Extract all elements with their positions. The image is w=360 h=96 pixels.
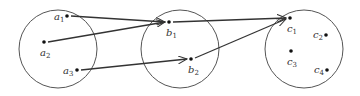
arrow-a3-to-b2 (81, 59, 187, 70)
point-b2 (189, 57, 193, 61)
point-c2 (324, 33, 328, 37)
set-c-circle (265, 10, 343, 88)
label-b2: b2 (188, 64, 199, 77)
mapping-diagram: a1a2a3b1b2c1c2c3c4 (0, 0, 360, 96)
point-b1 (167, 20, 171, 24)
point-a1 (65, 14, 69, 18)
label-c3: c3 (287, 56, 297, 69)
mapping-arrows (48, 16, 286, 70)
point-c3 (289, 49, 293, 53)
label-c2: c2 (313, 29, 323, 42)
label-c4: c4 (314, 64, 325, 77)
point-a2 (42, 40, 46, 44)
arrow-b2-to-c1 (195, 19, 286, 58)
label-a3: a3 (63, 65, 73, 78)
label-b1: b1 (166, 27, 177, 40)
arrow-a2-to-b1 (48, 22, 165, 42)
label-a1: a1 (54, 11, 64, 24)
point-a3 (75, 68, 79, 72)
point-c1 (288, 16, 292, 20)
label-c1: c1 (287, 23, 297, 36)
label-a2: a2 (40, 47, 50, 60)
point-c4 (325, 68, 329, 72)
arrow-b1-to-c1 (173, 18, 286, 22)
